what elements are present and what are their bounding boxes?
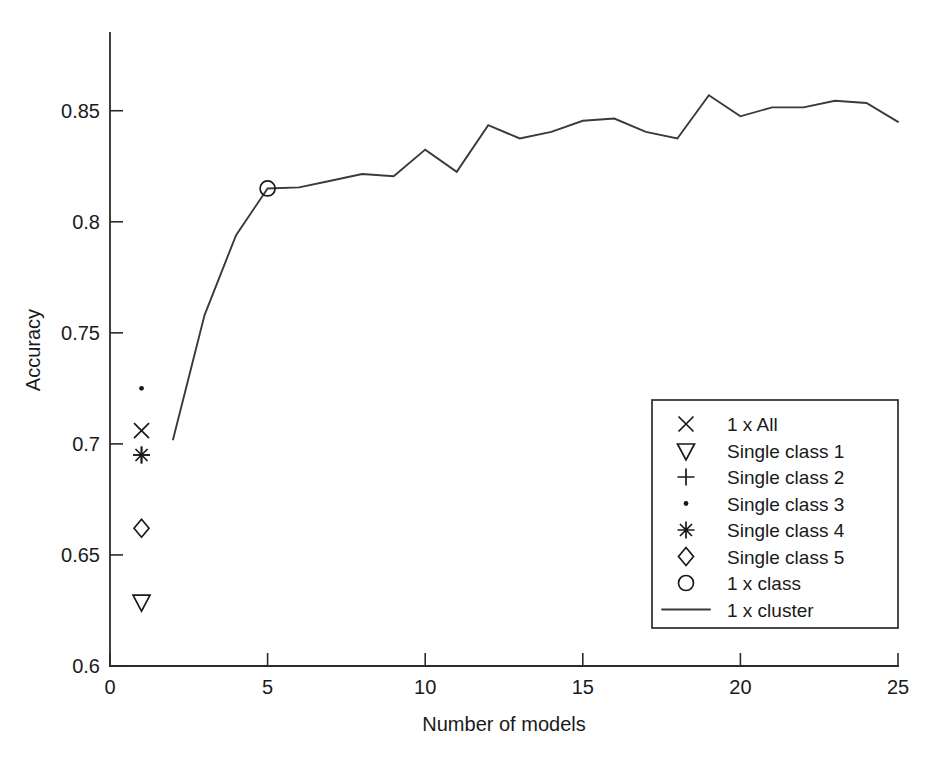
y-tick-label: 0.75 — [61, 322, 100, 344]
x-tick-group: 0510152025 — [104, 653, 909, 698]
datapoint-single-class-4-marker — [133, 447, 150, 464]
x-tick-label: 25 — [887, 676, 909, 698]
y-axis-title: Accuracy — [22, 309, 44, 391]
datapoint-single-class-1-marker — [133, 595, 150, 611]
legend-asterisk-marker — [678, 522, 695, 539]
x-tick-label: 0 — [104, 676, 115, 698]
x-axis-title: Number of models — [422, 713, 585, 735]
y-tick-label: 0.7 — [72, 433, 100, 455]
chart-figure: 0.60.650.70.750.80.85 0510152025 Number … — [0, 0, 950, 762]
x-tick-label: 10 — [414, 676, 436, 698]
y-tick-label: 0.6 — [72, 655, 100, 677]
y-tick-label: 0.65 — [61, 544, 100, 566]
marker-group — [133, 181, 275, 611]
x-tick-label: 20 — [729, 676, 751, 698]
datapoint-1-x-all-marker — [134, 423, 149, 438]
legend-label: 1 x class — [727, 573, 801, 594]
legend-label: 1 x All — [727, 414, 778, 435]
y-tick-group: 0.60.650.70.750.80.85 — [61, 100, 123, 677]
y-tick-label: 0.85 — [61, 100, 100, 122]
legend-label: Single class 1 — [727, 441, 844, 462]
plot-canvas: 0.60.650.70.750.80.85 0510152025 Number … — [0, 0, 950, 762]
legend: 1 x AllSingle class 1Single class 2Singl… — [652, 400, 898, 628]
datapoint-single-class-3-marker — [139, 386, 144, 391]
legend-label: Single class 2 — [727, 467, 844, 488]
x-tick-label: 5 — [262, 676, 273, 698]
legend-label: Single class 5 — [727, 547, 844, 568]
datapoint-single-class-5-marker — [134, 519, 149, 537]
y-tick-label: 0.8 — [72, 211, 100, 233]
legend-label: Single class 3 — [727, 494, 844, 515]
legend-dot-marker — [684, 501, 689, 506]
x-tick-label: 15 — [572, 676, 594, 698]
series-line-1-x-cluster — [173, 95, 898, 439]
legend-label: Single class 4 — [727, 520, 845, 541]
legend-label: 1 x cluster — [727, 600, 814, 621]
series-group — [173, 95, 898, 439]
